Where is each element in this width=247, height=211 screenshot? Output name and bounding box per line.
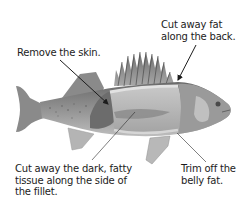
callout-line: Cut away the dark, fatty	[15, 163, 132, 175]
fish-eye	[216, 102, 221, 107]
callout-side-tissue: Cut away the dark, fatty tissue along th…	[15, 163, 132, 198]
callout-line: Cut away fat	[161, 19, 235, 31]
callout-skin: Remove the skin.	[17, 47, 100, 59]
anal-fin	[68, 128, 94, 150]
back-fat-arrow	[178, 45, 196, 80]
belly-fat-pointer-line	[177, 133, 206, 162]
callout-line: the fillet.	[15, 186, 132, 198]
callout-line: Remove the skin.	[17, 47, 100, 59]
callout-back-fat: Cut away fat along the back.	[161, 19, 235, 42]
callout-line: belly fat.	[181, 175, 236, 187]
dorsal-fin	[114, 52, 174, 86]
callout-line: tissue along the side of	[15, 175, 132, 187]
tail-fin	[16, 86, 44, 132]
pelvic-fin	[146, 136, 170, 164]
callout-belly-fat: Trim off the belly fat.	[181, 163, 236, 186]
callout-line: Trim off the	[181, 163, 236, 175]
callout-line: along the back.	[161, 31, 235, 43]
